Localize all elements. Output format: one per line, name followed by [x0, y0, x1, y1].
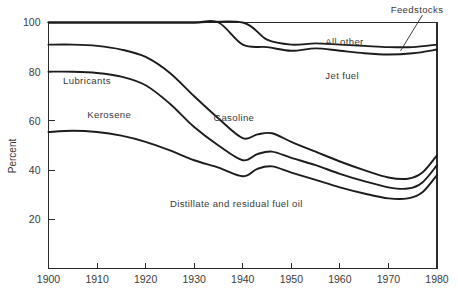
- x-tick-label: 1930: [183, 273, 207, 285]
- y-axis-ticks: [49, 23, 55, 220]
- y-axis-title: Percent: [7, 139, 18, 174]
- series-annotations: LubricantsKeroseneGasolineDistillate and…: [63, 4, 443, 209]
- annotation-kerosene: Kerosene: [87, 109, 131, 120]
- annotation-gasoline: Gasoline: [214, 112, 255, 123]
- curve-gasoline: [49, 72, 438, 189]
- annotation-distillate-and-residual-fuel-oil: Distillate and residual fuel oil: [170, 198, 303, 209]
- x-tick-label: 1970: [377, 273, 401, 285]
- petroleum-product-share-chart: 20406080100 1900191019201930194019501960…: [0, 0, 458, 299]
- x-axis-tick-labels: 190019101920193019401950196019701980: [37, 273, 449, 285]
- x-tick-label: 1900: [37, 273, 61, 285]
- plot-axes: [48, 22, 438, 269]
- x-tick-label: 1950: [280, 273, 304, 285]
- chart-container: 20406080100 1900191019201930194019501960…: [0, 0, 458, 299]
- x-tick-label: 1960: [328, 273, 352, 285]
- annotation-feedstocks: Feedstocks: [391, 4, 444, 15]
- curve-distillate-and-residual-fuel-oil: [49, 131, 438, 199]
- curve-lubricants: [49, 21, 438, 47]
- x-tick-label: 1940: [231, 273, 255, 285]
- y-tick-label: 100: [23, 16, 41, 28]
- x-tick-label: 1910: [85, 273, 109, 285]
- curve-kerosene: [49, 21, 438, 55]
- y-tick-label: 40: [29, 164, 41, 176]
- x-tick-label: 1980: [425, 273, 449, 285]
- feedstocks-leader-line: [401, 15, 423, 51]
- x-tick-label: 1920: [134, 273, 158, 285]
- x-axis-ticks: [97, 263, 388, 269]
- annotation-jet-fuel: Jet fuel: [325, 70, 359, 81]
- y-tick-label: 80: [29, 66, 41, 78]
- y-tick-label: 60: [29, 115, 41, 127]
- y-axis-tick-labels: 20406080100: [23, 16, 41, 225]
- annotation-lubricants: Lubricants: [63, 75, 111, 86]
- y-tick-label: 20: [29, 213, 41, 225]
- annotation-all-other: All other: [325, 36, 364, 47]
